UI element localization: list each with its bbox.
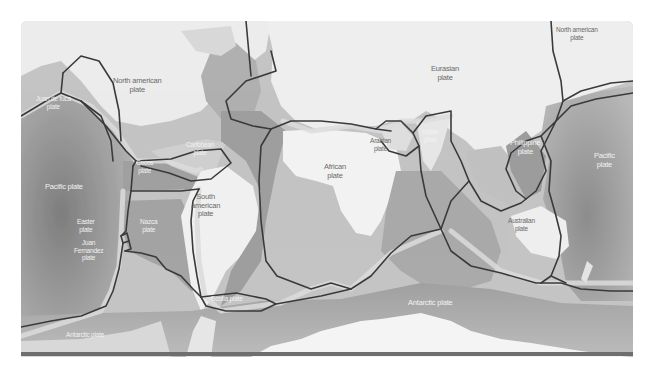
label-pacific-plate-west: Pacific plate (45, 183, 83, 192)
label-philippine-plate: Philippine plate (510, 139, 541, 156)
tectonic-plate-map: North american plate North american plat… (21, 21, 633, 357)
label-antarctic-plate-center: Antarctic plate (408, 299, 453, 308)
map-graphic (21, 21, 633, 357)
label-easter-plate: Easter plate (77, 218, 95, 233)
label-north-american-plate-west: North american plate (113, 77, 161, 94)
label-scotia-plate: Scotia plate (211, 295, 243, 303)
label-nazca-plate: Nazca plate (140, 218, 157, 233)
label-south-american-plate: South american plate (191, 193, 220, 219)
label-indian-plate: Indian plate (422, 128, 439, 143)
label-antarctic-plate-west: Antarctic plate (66, 331, 104, 339)
label-juan-de-fuca-plate: Juan de fuca plate (36, 95, 71, 110)
label-australian-plate: Australian plate (508, 217, 535, 232)
map-bottom-bar (21, 352, 633, 356)
label-juan-fernandez-plate: Juan Fernandez plate (74, 239, 103, 262)
label-african-plate: African plate (324, 163, 346, 180)
label-caribbean-plate: Caribbean plate (186, 141, 214, 156)
label-pacific-plate-east: Pacific plate (594, 152, 615, 169)
label-arabian-plate: Arabian plate (370, 137, 391, 152)
label-eurasian-plate: Eurasian plate (431, 65, 459, 82)
label-cocos-plate: Cocos plate (136, 159, 153, 174)
label-north-american-plate-east: North american plate (556, 26, 598, 41)
